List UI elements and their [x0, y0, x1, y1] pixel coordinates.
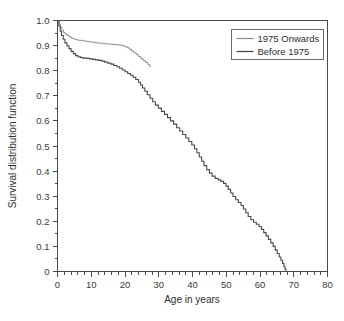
- chart-canvas: 01020304050607080 00.10.20.30.40.50.60.7…: [0, 0, 344, 321]
- legend-label-1975-onwards: 1975 Onwards: [258, 33, 320, 44]
- y-tick-label: 0.2: [36, 216, 49, 227]
- x-tick-label: 0: [55, 279, 60, 290]
- y-tick-label: 0.7: [36, 90, 49, 101]
- y-tick-label: 0.4: [36, 166, 49, 177]
- y-axis-tick-labels: 00.10.20.30.40.50.60.70.80.91.0: [36, 15, 49, 277]
- series-line-1975-onwards: [58, 21, 151, 67]
- y-tick-label: 0.8: [36, 65, 49, 76]
- x-tick-label: 70: [288, 279, 299, 290]
- x-tick-label: 60: [255, 279, 266, 290]
- y-tick-label: 0.3: [36, 191, 49, 202]
- x-axis-ticks: [58, 272, 328, 277]
- y-axis-title: Survival distribution function: [7, 84, 18, 209]
- x-tick-label: 40: [187, 279, 198, 290]
- y-tick-label: 1.0: [36, 15, 49, 26]
- y-tick-label: 0.5: [36, 141, 49, 152]
- y-axis-ticks: [53, 21, 58, 272]
- y-tick-label: 0.1: [36, 241, 49, 252]
- x-tick-label: 50: [221, 279, 232, 290]
- legend-label-before-1975: Before 1975: [258, 46, 310, 57]
- x-axis-tick-labels: 01020304050607080: [55, 279, 333, 290]
- x-tick-label: 30: [153, 279, 164, 290]
- x-axis-title: Age in years: [164, 294, 220, 305]
- survival-curve-figure: 01020304050607080 00.10.20.30.40.50.60.7…: [0, 0, 344, 321]
- chart-legend: 1975 OnwardsBefore 1975: [232, 30, 324, 60]
- x-tick-label: 80: [322, 279, 333, 290]
- y-tick-label: 0: [44, 266, 49, 277]
- x-tick-label: 20: [120, 279, 131, 290]
- y-tick-label: 0.6: [36, 115, 49, 126]
- x-tick-label: 10: [86, 279, 97, 290]
- y-tick-label: 0.9: [36, 40, 49, 51]
